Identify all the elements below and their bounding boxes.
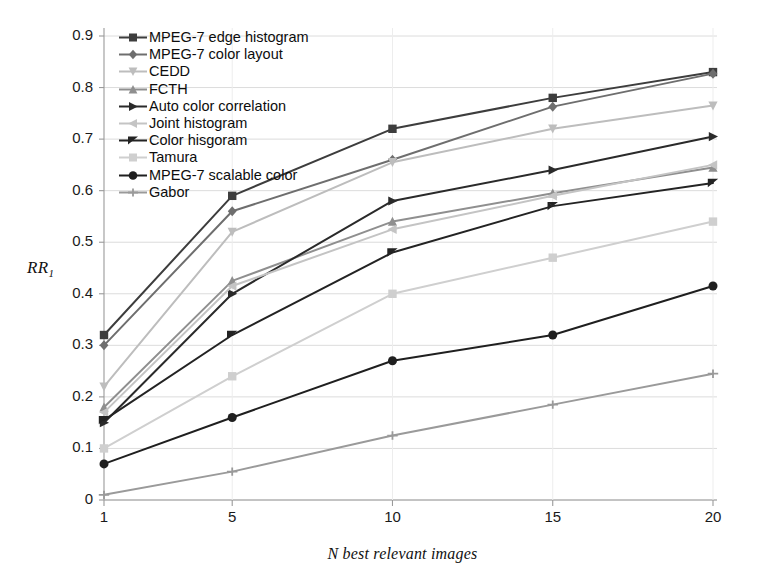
series-line xyxy=(104,165,713,412)
data-point-marker xyxy=(709,282,718,291)
legend-label: MPEG-7 edge histogram xyxy=(149,29,309,46)
legend-item[interactable]: Joint histogram xyxy=(118,115,368,132)
data-point-marker xyxy=(129,50,137,60)
legend-label: MPEG-7 scalable color xyxy=(149,167,297,184)
legend-label: Joint histogram xyxy=(149,115,247,132)
legend-item[interactable]: CEDD xyxy=(118,63,368,80)
legend-label: Tamura xyxy=(149,149,197,166)
series-line xyxy=(104,286,713,464)
x-axis-tick-label: 15 xyxy=(533,508,573,525)
data-point-marker xyxy=(129,171,138,180)
legend-item[interactable]: Gabor xyxy=(118,184,368,201)
data-point-marker xyxy=(388,356,397,365)
data-point-marker xyxy=(387,431,397,439)
legend-item[interactable]: Tamura xyxy=(118,149,368,166)
legend-marker-icon xyxy=(118,81,148,98)
data-point-marker xyxy=(228,372,236,380)
chart-series xyxy=(100,282,718,469)
y-axis-tick-label: 0.2 xyxy=(49,387,93,404)
legend-label: Color hisgoram xyxy=(149,132,247,149)
legend-item[interactable]: MPEG-7 edge histogram xyxy=(118,29,368,46)
legend-item[interactable]: Color hisgoram xyxy=(118,132,368,149)
legend-marker-icon xyxy=(118,46,148,63)
data-point-marker xyxy=(548,102,557,112)
data-point-marker xyxy=(228,413,237,422)
data-point-marker xyxy=(708,369,718,377)
y-axis-tick-label: 0.3 xyxy=(49,335,93,352)
data-point-marker xyxy=(99,382,108,391)
legend-item[interactable]: Auto color correlation xyxy=(118,98,368,115)
data-point-marker xyxy=(128,119,137,128)
data-point-marker xyxy=(129,34,137,42)
data-point-marker xyxy=(129,154,137,162)
data-point-marker xyxy=(100,444,108,452)
legend-marker-icon xyxy=(118,115,148,132)
y-axis-tick-label: 0.8 xyxy=(49,78,93,95)
series-line xyxy=(104,374,713,495)
y-axis-title-sub: 1 xyxy=(48,267,54,279)
x-axis-title-text: N best relevant images xyxy=(327,545,477,563)
data-point-marker xyxy=(549,253,557,261)
x-axis-tick-label: 5 xyxy=(212,508,252,525)
data-point-marker xyxy=(548,400,558,408)
y-axis-title-main: RR xyxy=(27,258,48,277)
data-point-marker xyxy=(129,102,138,111)
x-axis-tick-label: 20 xyxy=(693,508,733,525)
legend-marker-icon xyxy=(118,167,148,184)
x-axis-tick-label: 10 xyxy=(372,508,412,525)
chart-figure: RR1 N best relevant images 00.10.20.30.4… xyxy=(0,0,781,586)
legend-item[interactable]: FCTH xyxy=(118,81,368,98)
y-axis-tick-label: 0 xyxy=(49,490,93,507)
legend-label: CEDD xyxy=(149,63,190,80)
legend-marker-icon xyxy=(118,29,148,46)
data-point-marker xyxy=(99,491,109,499)
y-axis-tick-label: 0.1 xyxy=(49,438,93,455)
data-point-marker xyxy=(388,125,396,133)
data-point-marker xyxy=(548,331,557,340)
legend-marker-icon xyxy=(118,184,148,201)
data-point-marker xyxy=(709,217,717,225)
legend-item[interactable]: MPEG-7 color layout xyxy=(118,46,368,63)
y-axis-tick-label: 0.7 xyxy=(49,129,93,146)
data-point-marker xyxy=(128,188,138,196)
legend-marker-icon xyxy=(118,63,148,80)
chart-series xyxy=(99,179,718,425)
chart-series xyxy=(99,369,718,499)
y-axis-tick-label: 0.6 xyxy=(49,181,93,198)
y-axis-title: RR1 xyxy=(27,258,54,279)
legend-label: Auto color correlation xyxy=(149,98,286,115)
data-point-marker xyxy=(100,331,108,339)
legend-marker-icon xyxy=(118,149,148,166)
legend-label: Gabor xyxy=(149,184,189,201)
legend-item[interactable]: MPEG-7 scalable color xyxy=(118,167,368,184)
series-line xyxy=(104,167,713,407)
data-point-marker xyxy=(549,94,557,102)
legend-marker-icon xyxy=(118,132,148,149)
x-axis-title: N best relevant images xyxy=(0,545,781,563)
series-line xyxy=(104,222,713,449)
legend-label: FCTH xyxy=(149,81,188,98)
y-axis-tick-label: 0.9 xyxy=(49,26,93,43)
chart-legend: MPEG-7 edge histogramMPEG-7 color layout… xyxy=(118,29,368,201)
data-point-marker xyxy=(388,290,396,298)
data-point-marker xyxy=(100,459,109,468)
y-axis-tick-label: 0.4 xyxy=(49,284,93,301)
legend-marker-icon xyxy=(118,98,148,115)
x-axis-tick-label: 1 xyxy=(84,508,124,525)
data-point-marker xyxy=(227,467,237,475)
legend-label: MPEG-7 color layout xyxy=(149,46,283,63)
y-axis-tick-label: 0.5 xyxy=(49,232,93,249)
